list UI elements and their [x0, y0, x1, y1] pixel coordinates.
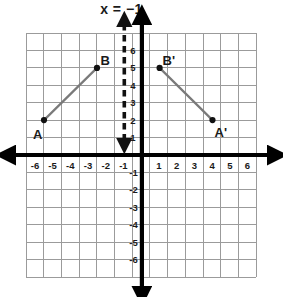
x-tick-pos-3: 3	[192, 160, 197, 171]
point-label-A: A	[33, 127, 43, 142]
segment-A-prime-B-prime	[157, 65, 216, 123]
y-tick-neg-3: -3	[129, 202, 137, 213]
point-label-B-prime: B'	[163, 53, 175, 68]
y-tick-neg-1: -1	[129, 167, 138, 178]
y-tick-pos-1: 1	[130, 132, 136, 143]
x-tick-neg-2: -2	[101, 160, 109, 171]
x-tick-pos-2: 2	[174, 160, 179, 171]
y-tick-neg-6: -6	[129, 254, 137, 265]
y-tick-pos-5: 5	[130, 62, 136, 73]
x-tick-neg-3: -3	[84, 160, 92, 171]
y-tick-pos-4: 4	[130, 80, 136, 91]
segment-AB	[41, 65, 100, 123]
x-tick-pos-6: 6	[245, 160, 250, 171]
x-tick-pos-5: 5	[227, 160, 233, 171]
point-label-A-prime: A'	[215, 125, 227, 140]
point-A-prime	[209, 117, 215, 123]
coordinate-plane-figure: x = −1	[0, 0, 283, 297]
x-tick-neg-1: -1	[119, 160, 128, 171]
graph-canvas: -6 -5 -4 -3 -2 -1 1 2 3 4 5 6 6 5 4 3 2 …	[0, 0, 283, 297]
x-tick-neg-6: -6	[31, 160, 39, 171]
point-B	[94, 65, 100, 71]
y-tick-pos-2: 2	[130, 115, 135, 126]
y-tick-neg-2: -2	[129, 184, 137, 195]
y-tick-neg-4: -4	[129, 219, 138, 230]
x-tick-pos-4: 4	[209, 160, 215, 171]
y-tick-pos-3: 3	[130, 97, 135, 108]
point-label-B: B	[101, 53, 110, 68]
point-A	[41, 117, 47, 123]
x-tick-neg-5: -5	[48, 160, 57, 171]
y-tick-neg-5: -5	[129, 237, 138, 248]
x-tick-neg-4: -4	[66, 160, 75, 171]
axes	[12, 21, 271, 290]
y-tick-pos-6: 6	[130, 45, 135, 56]
x-tick-pos-1: 1	[156, 160, 162, 171]
